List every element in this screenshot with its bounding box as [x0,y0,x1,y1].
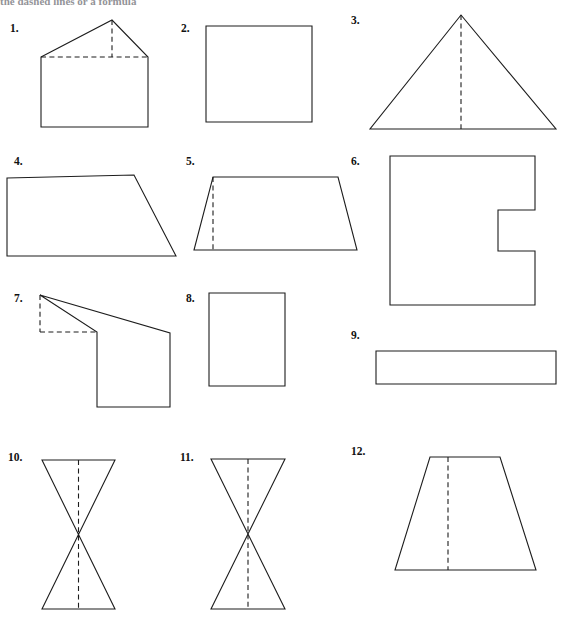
shapes-canvas: 1.2.3.4.5.6.7.8.9.10.11.12. [0,0,561,620]
figure-number-label: 4. [14,155,23,167]
worksheet-page: the dashed lines or a formula 1.2.3.4.5.… [0,0,561,620]
figure-number-label: 1. [10,22,19,34]
notched-square-c-shape: 6. [351,155,535,305]
figures-group: 1.2.3.4.5.6.7.8.9.10.11.12. [7,14,556,609]
figure-number-label: 5. [186,155,195,167]
shape-outline [370,15,556,129]
shape-outline [376,351,556,384]
trapezoid-with-dashed-height: 12. [351,445,536,570]
tall-rectangle: 8. [186,292,285,386]
figure-number-label: 3. [351,14,360,26]
shape-outline [390,156,535,305]
figure-number-label: 6. [351,155,360,167]
figure-number-label: 12. [351,445,366,457]
shape-outline [206,26,312,122]
shape-outline [41,20,148,127]
shape-outline [194,177,357,250]
asymmetric-bowtie: 11. [180,451,285,609]
figure-number-label: 7. [14,292,23,304]
shape-outline [209,293,285,386]
composite-polygon-with-dashed-rectangle: 7. [14,292,170,407]
figure-number-label: 11. [180,451,194,463]
right-trapezoid: 4. [7,155,176,256]
pentagon-house: 1. [10,20,148,127]
symmetric-bowtie: 10. [8,451,115,609]
wide-flat-rectangle: 9. [351,329,556,384]
figure-number-label: 10. [8,451,23,463]
shape-outline [395,457,536,570]
trapezoid-with-height: 5. [186,155,357,250]
shape-outline [40,295,170,407]
rectangle-square: 2. [181,22,312,122]
figure-number-label: 9. [351,329,360,341]
figure-number-label: 8. [186,292,195,304]
figure-number-label: 2. [181,22,190,34]
shape-outline [7,175,176,256]
triangle-with-altitude: 3. [351,14,556,129]
